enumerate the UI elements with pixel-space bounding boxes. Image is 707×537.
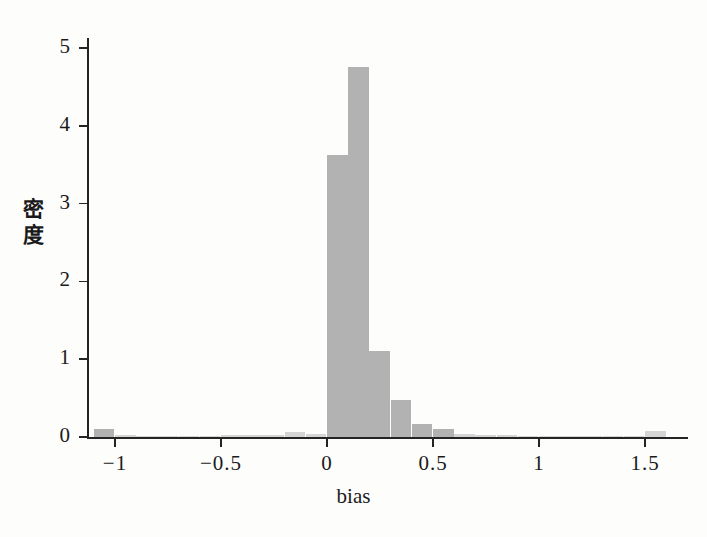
histogram-bar [136,436,157,437]
y-axis-label-char: 度 [18,222,48,248]
histogram-bar [348,67,369,437]
histogram-bar [157,436,178,437]
histogram-bar [221,435,242,437]
x-axis-tick-label: 0 [282,452,372,474]
histogram-bar [94,429,115,437]
histogram-bar [581,436,602,437]
histogram-bar [603,436,624,437]
histogram-bar [454,434,475,438]
histogram-bar [645,431,666,437]
histogram-bar [200,436,221,437]
histogram-bar [263,435,284,437]
histogram-bar [412,424,433,437]
y-axis-tick [79,358,87,360]
y-axis-tick [79,436,87,438]
x-axis-tick-label: 0.5 [388,452,478,474]
x-axis-tick [432,439,434,447]
histogram-bar [624,436,645,437]
histogram-bar [327,155,348,437]
histogram-bar [433,429,454,437]
histogram-bar [285,432,306,437]
x-axis-tick-label: 1 [494,452,584,474]
histogram-bar [115,435,136,437]
y-axis-tick-label: 4 [30,114,70,135]
x-axis-line [87,437,688,439]
histogram-bar [539,436,560,437]
y-axis-tick-label: 2 [30,269,70,290]
histogram-bar [391,400,412,437]
x-axis-tick [538,439,540,447]
histogram-bar [179,436,200,437]
y-axis-tick [79,203,87,205]
y-axis-tick-label: 1 [30,347,70,368]
histogram-bar [242,435,263,437]
x-axis-tick [644,439,646,447]
histogram-figure: 密度 012345−1−0.500.511.5 bias [0,0,707,537]
histogram-bar [518,436,539,437]
x-axis-label: bias [0,484,707,509]
y-axis-tick [79,47,87,49]
y-axis-tick-label: 5 [30,36,70,57]
x-axis-tick [114,439,116,447]
y-axis-tick [79,281,87,283]
y-axis-tick [79,125,87,127]
histogram-bar [560,436,581,437]
histogram-bar [369,351,390,437]
histogram-bar [497,435,518,437]
x-axis-tick [326,439,328,447]
x-axis-tick-label: −0.5 [176,452,266,474]
histogram-bar [306,434,327,437]
y-axis-tick-label: 0 [30,425,70,446]
x-axis-tick-label: 1.5 [600,452,690,474]
histogram-bar [475,435,496,437]
x-axis-tick [220,439,222,447]
y-axis-tick-label: 3 [30,192,70,213]
plot-area [88,38,680,437]
x-axis-tick-label: −1 [70,452,160,474]
